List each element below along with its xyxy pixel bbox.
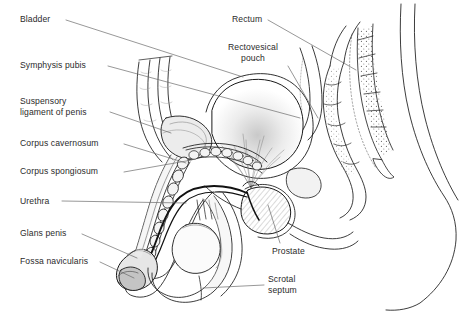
leader-suspensory-ligament xyxy=(110,112,171,133)
label-scrotal-septum: Scrotal septum xyxy=(268,274,297,295)
label-rectovesical-pouch: Rectovesical pouch xyxy=(228,42,278,63)
seminal-vesicle xyxy=(286,168,321,198)
label-prostate: Prostate xyxy=(272,246,305,257)
label-corpus-spongiosum: Corpus spongiosum xyxy=(20,166,98,177)
leader-rectum xyxy=(268,20,356,70)
prostate xyxy=(241,184,295,238)
label-symphysis-pubis: Symphysis pubis xyxy=(20,60,86,71)
leader-bladder xyxy=(66,20,243,77)
anatomy-figure-page: Bladder Symphysis pubis Suspensory ligam… xyxy=(0,0,462,311)
label-glans-penis: Glans penis xyxy=(20,228,66,239)
testis xyxy=(172,223,222,273)
label-corpus-cavernosum: Corpus cavernosum xyxy=(20,138,99,149)
sigmoid-colon xyxy=(330,22,360,66)
sacrum-coccyx xyxy=(350,24,394,178)
scrotal-septum xyxy=(199,276,201,300)
label-urethra: Urethra xyxy=(20,196,49,207)
label-bladder: Bladder xyxy=(20,14,50,25)
label-fossa-navicularis: Fossa navicularis xyxy=(20,256,88,267)
label-suspensory-ligament-of-penis: Suspensory ligament of penis xyxy=(20,96,87,117)
label-rectum: Rectum xyxy=(232,14,262,25)
body-outer-contour xyxy=(386,4,458,310)
leader-glans-penis xyxy=(82,234,137,258)
